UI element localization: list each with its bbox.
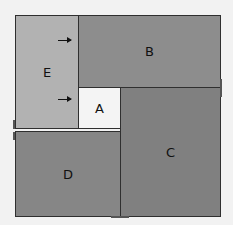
arrow-right-icon [58, 40, 71, 41]
piece-d-label: D [63, 167, 73, 182]
hinge-tab [13, 132, 15, 140]
piece-e-label: E [43, 65, 51, 80]
hinge-tab [111, 216, 129, 218]
piece-e: E [15, 15, 79, 129]
arrow-right-icon [58, 99, 71, 100]
piece-b: B [78, 15, 221, 88]
hinge-tab [220, 79, 222, 97]
piece-c: C [120, 87, 221, 217]
piece-c-label: C [166, 145, 175, 160]
hinge-tab [13, 120, 15, 129]
piece-b-label: B [145, 44, 154, 59]
piece-a-label: A [95, 101, 104, 116]
piece-d: D [15, 131, 121, 217]
piece-a: A [78, 87, 121, 129]
